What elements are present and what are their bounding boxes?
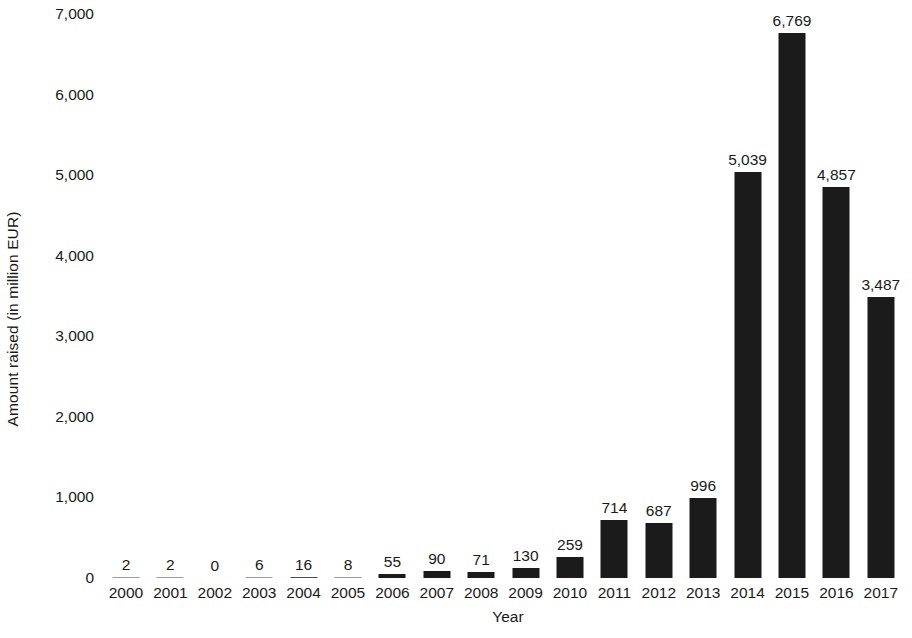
bar-2013[interactable] (690, 498, 717, 578)
bar-2011[interactable] (601, 520, 628, 578)
y-axis-tick-3000: 3,000 (55, 326, 94, 346)
bar-value-label-2002: 0 (210, 556, 219, 575)
bar-2001[interactable] (157, 577, 184, 578)
y-axis-tick-5000: 5,000 (55, 165, 94, 185)
y-axis-tick-0: 0 (85, 568, 94, 588)
bar-2009[interactable] (512, 568, 539, 578)
x-axis-tick-2004: 2004 (281, 582, 327, 604)
bar-2000[interactable] (113, 577, 140, 578)
bar-value-label-2007: 90 (428, 549, 445, 568)
bar-2004[interactable] (290, 577, 317, 578)
bar-value-label-2005: 8 (344, 555, 353, 574)
x-axis-tick-2002: 2002 (192, 582, 238, 604)
bar-2017[interactable] (867, 297, 894, 578)
bar-value-label-2012: 687 (646, 501, 672, 520)
bar-value-label-2016: 4,857 (817, 165, 856, 184)
bar-2008[interactable] (468, 572, 495, 578)
bar-value-label-2013: 996 (690, 476, 716, 495)
y-axis-tick-6000: 6,000 (55, 85, 94, 105)
x-axis-tick-2007: 2007 (414, 582, 460, 604)
x-axis-tick-2011: 2011 (591, 582, 637, 604)
bar-value-label-2006: 55 (384, 552, 401, 571)
x-axis-tick-2012: 2012 (636, 582, 682, 604)
x-axis-tick-2000: 2000 (103, 582, 149, 604)
bar-value-label-2008: 71 (473, 550, 490, 569)
bar-2014[interactable] (734, 172, 761, 578)
x-axis-tick-2009: 2009 (503, 582, 549, 604)
bar-value-label-2010: 259 (557, 535, 583, 554)
x-axis-tick-2017: 2017 (858, 582, 904, 604)
bar-chart: Amount raised (in million EUR) 01,0002,0… (0, 0, 912, 638)
bar-2007[interactable] (423, 571, 450, 578)
x-axis-tick-2001: 2001 (147, 582, 193, 604)
x-axis-tick-2013: 2013 (680, 582, 726, 604)
bar-2010[interactable] (557, 557, 584, 578)
x-axis-tick-2015: 2015 (769, 582, 815, 604)
bar-2005[interactable] (335, 577, 362, 578)
x-axis-tick-2008: 2008 (458, 582, 504, 604)
bar-2006[interactable] (379, 574, 406, 578)
bar-value-label-2009: 130 (513, 546, 539, 565)
y-axis-tick-labels: 01,0002,0003,0004,0005,0006,0007,000 (0, 0, 104, 638)
x-axis-tick-2003: 2003 (236, 582, 282, 604)
x-axis-tick-2010: 2010 (547, 582, 593, 604)
bar-2016[interactable] (823, 187, 850, 578)
bar-value-label-2001: 2 (166, 555, 175, 574)
bar-value-label-2011: 714 (601, 498, 627, 517)
bar-value-label-2004: 16 (295, 555, 312, 574)
bar-2012[interactable] (645, 523, 672, 578)
y-axis-tick-2000: 2,000 (55, 407, 94, 427)
y-axis-tick-1000: 1,000 (55, 487, 94, 507)
y-axis-tick-4000: 4,000 (55, 246, 94, 266)
x-axis-tick-2006: 2006 (369, 582, 415, 604)
x-axis-tick-2016: 2016 (813, 582, 859, 604)
x-axis-tick-2014: 2014 (725, 582, 771, 604)
bar-value-label-2014: 5,039 (728, 150, 767, 169)
bar-2003[interactable] (246, 577, 273, 578)
bar-value-label-2017: 3,487 (861, 275, 900, 294)
bar-2015[interactable] (779, 33, 806, 578)
plot-area: Year 22000220010200262003162004820055520… (104, 0, 912, 638)
x-axis-tick-2005: 2005 (325, 582, 371, 604)
bar-value-label-2015: 6,769 (773, 11, 812, 30)
y-axis-tick-7000: 7,000 (55, 4, 94, 24)
bar-value-label-2000: 2 (122, 555, 131, 574)
bar-value-label-2003: 6 (255, 555, 264, 574)
x-axis-title: Year (104, 608, 912, 626)
